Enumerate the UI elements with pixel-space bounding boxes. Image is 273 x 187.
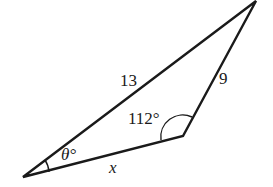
triangle-diagram: 13 9 112° θ° x	[0, 0, 273, 187]
label-13: 13	[120, 71, 137, 90]
label-112-degrees: 112°	[128, 109, 160, 128]
label-theta: θ°	[61, 145, 76, 164]
triangle	[23, 1, 256, 177]
label-x: x	[108, 158, 117, 177]
label-9: 9	[219, 69, 228, 88]
